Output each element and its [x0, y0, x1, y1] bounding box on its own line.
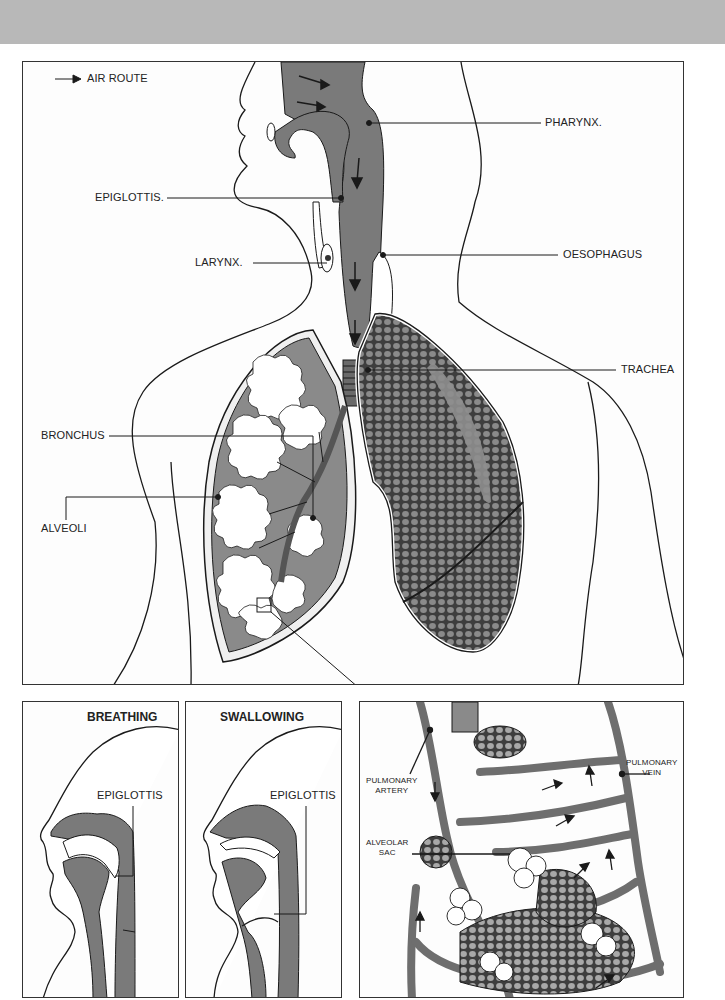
label-alveolar-sac-line1: ALVEOLAR	[366, 838, 408, 848]
label-bronchus: BRONCHUS	[41, 429, 105, 441]
label-pulmonary-vein-line1: PULMONARY	[626, 758, 677, 768]
label-oesophagus: OESOPHAGUS	[563, 248, 642, 260]
breathing-title: BREATHING	[87, 710, 157, 724]
label-pulmonary-vein-line2: VEIN	[626, 768, 677, 778]
label-alveoli: ALVEOLI	[41, 522, 87, 534]
swallowing-epiglottis-label: EPIGLOTTIS	[270, 789, 336, 801]
swallowing-head-illustration	[186, 702, 342, 998]
swallowing-panel: SWALLOWING EPIGLOTTIS	[185, 701, 342, 998]
alveolar-capillary-illustration	[360, 702, 684, 998]
legend-label: AIR ROUTE	[87, 72, 148, 84]
label-pulmonary-artery: PULMONARY ARTERY	[366, 776, 417, 796]
alveoli-detail-panel: PULMONARY ARTERY PULMONARY VEIN ALVEOLAR…	[359, 701, 684, 998]
breathing-epiglottis-label: EPIGLOTTIS	[97, 789, 163, 801]
label-alveolar-sac-line2: SAC	[366, 848, 408, 858]
respiratory-system-illustration	[23, 62, 684, 685]
label-trachea: TRACHEA	[621, 363, 674, 375]
label-pulmonary-vein: PULMONARY VEIN	[626, 758, 677, 778]
label-pharynx: PHARYNX.	[545, 116, 602, 128]
swallowing-title: SWALLOWING	[220, 710, 304, 724]
label-larynx: LARYNX.	[195, 256, 243, 268]
label-pulmonary-artery-line2: ARTERY	[366, 786, 417, 796]
breathing-panel: BREATHING EPIGLOTTIS	[22, 701, 179, 998]
breathing-head-illustration	[23, 702, 179, 998]
label-pulmonary-artery-line1: PULMONARY	[366, 776, 417, 786]
label-epiglottis: EPIGLOTTIS.	[95, 191, 164, 203]
main-diagram-panel: AIR ROUTE PHARYNX. EPIGLOTTIS. LARYNX. O…	[22, 61, 684, 685]
label-alveolar-sac: ALVEOLAR SAC	[366, 838, 408, 858]
header-banner	[0, 0, 725, 44]
